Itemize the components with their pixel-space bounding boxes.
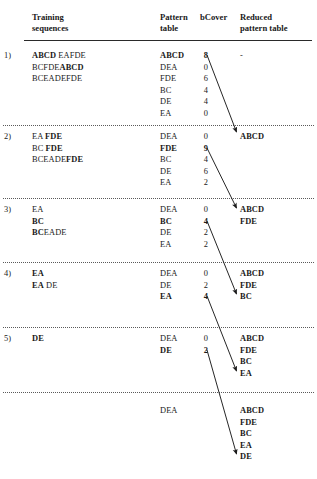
reduced-final-3: BC [240, 428, 310, 440]
row-separator-1 [3, 125, 314, 126]
bcover-2-1: 0 [200, 131, 212, 143]
bcover-1-1: 8 [200, 50, 212, 62]
reduced-3-1: ABCD [240, 204, 310, 216]
row-index-5: 5) [4, 333, 20, 345]
seq-bold-part: DE [32, 334, 44, 343]
training-sequence-4-1: EA [32, 268, 152, 280]
pattern-5-1: DEA [160, 333, 196, 345]
pattern-2-5: EA [160, 177, 196, 189]
seq-plain-part: BC [32, 144, 43, 153]
pattern-2-1: DEA [160, 131, 196, 143]
row-separator-2 [3, 198, 314, 199]
reduced-final-2: FDE [240, 417, 310, 429]
arrow-row5-to-de [207, 350, 237, 454]
seq-plain-part: EADE [44, 228, 67, 237]
reduced-3-2: FDE [240, 216, 310, 228]
bcover-2-2: 9 [200, 143, 212, 155]
training-sequence-4-2: EA DE [32, 280, 152, 292]
column-header-reduced-line1: Reduced [240, 12, 314, 23]
training-sequence-1-3: BCEADEFDE [32, 73, 152, 85]
training-sequence-3-2: BC [32, 216, 152, 228]
seq-bold-part: EA [32, 269, 44, 278]
pattern-2-4: DE [160, 166, 196, 178]
bcover-1-5: 4 [200, 96, 212, 108]
bcover-4-2: 2 [200, 280, 212, 292]
pattern-4-3: EA [160, 291, 196, 303]
bcover-1-2: 0 [200, 62, 212, 74]
seq-plain-part: BCEADE [32, 155, 66, 164]
reduced-4-1: ABCD [240, 268, 310, 280]
bcover-5-1: 0 [200, 333, 212, 345]
reduced-final-5: DE [240, 451, 310, 463]
bcover-2-5: 2 [200, 177, 212, 189]
pattern-1-4: BC [160, 85, 196, 97]
row-separator-5 [3, 392, 314, 393]
row-separator-3 [3, 262, 314, 263]
pattern-3-2: BC [160, 216, 196, 228]
pattern-1-6: EA [160, 108, 196, 120]
seq-plain-part: EAFDE [58, 51, 86, 60]
bcover-4-3: 4 [200, 291, 212, 303]
pattern-1-1: ABCD [160, 50, 196, 62]
bcover-3-3: 2 [200, 227, 212, 239]
column-header-training-line1: Training [32, 12, 147, 23]
column-header-reduced-pattern-table: Reduced pattern table [240, 12, 314, 33]
reduced-final-4: EA [240, 440, 310, 452]
pattern-3-3: DE [160, 227, 196, 239]
pattern-1-3: FDE [160, 73, 196, 85]
pattern-1-5: DE [160, 96, 196, 108]
row-index-3: 3) [4, 204, 20, 216]
seq-bold-part: FDE [66, 155, 83, 164]
column-header-bcover: bCover [200, 12, 242, 23]
seq-bold-part: FDE [45, 132, 62, 141]
bcover-1-3: 6 [200, 73, 212, 85]
reduced-2-1: ABCD [240, 131, 310, 143]
column-header-pattern-line2: table [160, 23, 200, 34]
pattern-4-1: DEA [160, 268, 196, 280]
row-index-2: 2) [4, 131, 20, 143]
reduced-1-1: - [240, 50, 310, 62]
pattern-2-2: FDE [160, 143, 196, 155]
seq-plain-part: BCEADEFDE [32, 74, 82, 83]
column-header-bcover-line1: bCover [200, 12, 242, 23]
reduced-5-1: ABCD [240, 333, 310, 345]
column-header-training-sequences: Training sequences [32, 12, 147, 33]
seq-plain-part: EA [32, 132, 43, 141]
seq-plain-part: DE [44, 281, 58, 290]
reduced-5-4: EA [240, 368, 310, 380]
reduced-5-2: FDE [240, 345, 310, 357]
bcover-2-3: 4 [200, 154, 212, 166]
seq-bold-part: FDE [46, 144, 63, 153]
bcover-4-1: 0 [200, 268, 212, 280]
bcover-3-2: 4 [200, 216, 212, 228]
column-header-training-line2: sequences [32, 23, 147, 34]
pattern-5-2: DE [160, 345, 196, 357]
bcover-3-1: 0 [200, 204, 212, 216]
bcover-1-4: 4 [200, 85, 212, 97]
training-sequence-1-1: ABCD EAFDE [32, 50, 152, 62]
pattern-1-2: DEA [160, 62, 196, 74]
column-header-pattern-table: Pattern table [160, 12, 200, 33]
training-sequence-2-2: BC FDE [32, 143, 152, 155]
seq-bold-part: BC [32, 228, 44, 237]
training-sequence-2-1: EA FDE [32, 131, 152, 143]
training-sequence-2-3: BCEADEFDE [32, 154, 152, 166]
seq-bold-part: ABCD [60, 63, 84, 72]
reduced-4-3: BC [240, 291, 310, 303]
column-header-pattern-line1: Pattern [160, 12, 200, 23]
seq-plain-part: EA [32, 205, 43, 214]
pattern-2-3: BC [160, 154, 196, 166]
bcover-1-6: 0 [200, 108, 212, 120]
reduced-5-3: BC [240, 356, 310, 368]
seq-bold-part: BC [32, 217, 44, 226]
reduced-4-2: FDE [240, 280, 310, 292]
bcover-5-2: 2 [200, 345, 212, 357]
seq-plain-part: BCFDE [32, 63, 60, 72]
bcover-3-4: 2 [200, 239, 212, 251]
bcover-2-4: 6 [200, 166, 212, 178]
pattern-3-1: DEA [160, 204, 196, 216]
pattern-4-2: DE [160, 280, 196, 292]
training-sequence-1-2: BCFDEABCD [32, 62, 152, 74]
training-sequence-3-3: BCEADE [32, 227, 152, 239]
seq-bold-part: EA [32, 281, 44, 290]
